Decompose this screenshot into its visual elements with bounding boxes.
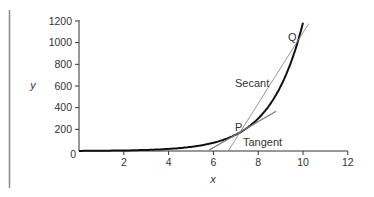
curve-line	[79, 23, 303, 151]
y-tick-label: 400	[54, 101, 72, 113]
secant-label: Secant	[235, 77, 269, 89]
y-tick-label: 1200	[49, 15, 73, 27]
y-tick-label: 800	[54, 58, 72, 70]
series-group	[79, 23, 309, 151]
y-tick-label: 600	[54, 80, 72, 92]
point-q-label: Q	[288, 31, 297, 43]
x-tick-label: 10	[297, 156, 309, 168]
y-axis-label: y	[29, 79, 37, 91]
origin-label: 0	[70, 148, 76, 160]
x-tick-label: 4	[166, 156, 172, 168]
y-tick-label: 200	[54, 123, 72, 135]
x-tick-label: 2	[121, 156, 127, 168]
tangent-label: Tangent	[243, 136, 282, 148]
chart: 20040060080010001200246810120xy SecantTa…	[0, 0, 374, 197]
x-tick-label: 6	[210, 156, 216, 168]
point-p-label: P	[235, 121, 242, 133]
axes: 20040060080010001200246810120xy	[29, 15, 354, 186]
y-tick-label: 1000	[49, 36, 73, 48]
x-tick-label: 12	[342, 156, 354, 168]
x-axis-label: x	[209, 173, 216, 185]
x-tick-label: 8	[255, 156, 261, 168]
